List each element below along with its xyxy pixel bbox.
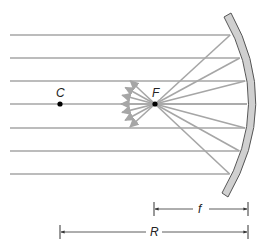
reflected-rays — [155, 35, 247, 174]
center-of-curvature-point — [57, 101, 62, 106]
concave-mirror-diagram: C F f R — [0, 0, 262, 248]
diverging-ray-arrows — [121, 81, 155, 127]
focal-length-label: f — [197, 203, 202, 215]
center-of-curvature-label: C — [55, 87, 66, 99]
focal-point — [152, 101, 157, 106]
radius-label: R — [149, 226, 160, 238]
diagram-canvas — [0, 0, 262, 248]
focal-point-label: F — [151, 87, 160, 99]
concave-mirror — [222, 13, 256, 197]
